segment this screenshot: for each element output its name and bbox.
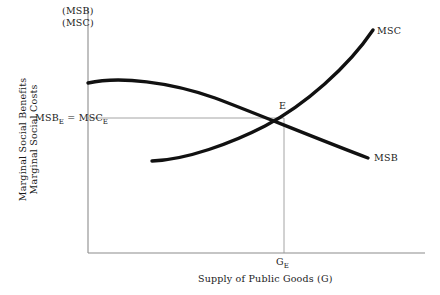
equilibrium-quantity-g: G bbox=[276, 256, 284, 267]
msb-curve-label: MSB bbox=[374, 152, 398, 164]
y-axis-header: (MSB) (MSC) bbox=[62, 5, 94, 29]
y-axis-header-msb: (MSB) bbox=[62, 5, 94, 17]
chart-canvas bbox=[0, 0, 440, 295]
msc-curve-label: MSC bbox=[377, 25, 401, 37]
y-axis-title-line1: Marginal Social Benefits bbox=[17, 64, 28, 214]
equilibrium-value-label: MSBE = MSCE bbox=[35, 112, 108, 127]
equilibrium-point-label: E bbox=[279, 100, 286, 112]
equilibrium-quantity-subscript: E bbox=[284, 262, 289, 270]
equilibrium-value-equals: = MSC bbox=[64, 112, 103, 123]
equilibrium-value-msb: MSB bbox=[35, 112, 59, 123]
y-axis-title: Marginal Social Benefits Marginal Social… bbox=[17, 64, 40, 214]
msc-curve bbox=[152, 30, 373, 161]
x-axis-title: Supply of Public Goods (G) bbox=[198, 273, 333, 285]
msb-curve bbox=[88, 80, 368, 158]
y-axis-header-msc: (MSC) bbox=[62, 17, 94, 29]
y-axis-title-line2: Marginal Social Costs bbox=[28, 64, 39, 214]
equilibrium-quantity-label: GE bbox=[276, 256, 289, 271]
equilibrium-value-msc-subscript: E bbox=[103, 118, 108, 126]
public-goods-equilibrium-figure: (MSB) (MSC) Marginal Social Benefits Mar… bbox=[0, 0, 440, 295]
